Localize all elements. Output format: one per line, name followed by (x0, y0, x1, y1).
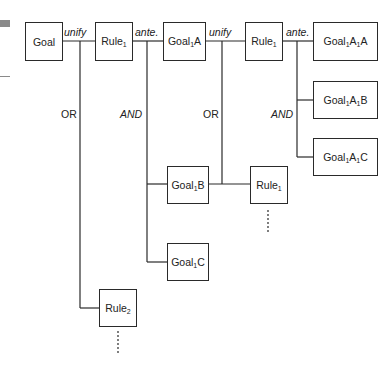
node-label: Goal (33, 36, 55, 48)
node-goal1a1a: Goal1A1A (313, 22, 378, 61)
node-label: Goal (171, 179, 193, 191)
node-subscript: 1 (123, 41, 127, 48)
node-label-suffix: C (360, 151, 368, 163)
node-label: Rule (251, 35, 273, 47)
node-label-suffix: B (198, 179, 205, 191)
node-label: Goal (168, 35, 190, 47)
node-label-suffix: B (361, 94, 368, 106)
node-label-mid: A (350, 35, 357, 47)
node-rule1: Rule1 (95, 22, 133, 61)
node-label: Rule (101, 35, 123, 47)
edge-label-ante: ante. (135, 26, 158, 38)
edge-label-ante: ante. (286, 26, 309, 38)
edge-label-unify: unify (209, 26, 231, 38)
node-label: Rule (256, 179, 278, 191)
node-label-mid: A (350, 94, 357, 106)
node-goal1a1b: Goal1A1B (313, 81, 378, 119)
node-label-suffix: C (197, 256, 205, 268)
node-label-suffix: A (194, 35, 201, 47)
node-rule2: Rule2 (99, 289, 137, 327)
node-rule1-second: Rule1 (245, 22, 283, 61)
node-goal1b: Goal1B (167, 166, 209, 204)
node-label: Goal (323, 94, 345, 106)
node-goal1a: Goal1A (163, 22, 206, 61)
node-goal: Goal (25, 22, 63, 61)
node-rule1-third: Rule1 (250, 166, 288, 204)
node-subscript: 2 (127, 308, 131, 315)
edge-label-and: AND (271, 108, 293, 120)
node-label: Goal (323, 35, 345, 47)
edge-label-and: AND (120, 108, 142, 120)
node-goal1c: Goal1C (167, 243, 209, 281)
node-label: Rule (105, 302, 127, 314)
node-subscript: 1 (278, 185, 282, 192)
edge-label-or: OR (61, 108, 77, 120)
node-goal1a1c: Goal1A1C (313, 138, 378, 176)
node-subscript: 1 (273, 41, 277, 48)
node-label: Goal (323, 151, 345, 163)
node-label-suffix: A (361, 35, 368, 47)
node-label: Goal (171, 256, 193, 268)
edge-label-unify: unify (64, 26, 86, 38)
edge-label-or: OR (203, 108, 219, 120)
